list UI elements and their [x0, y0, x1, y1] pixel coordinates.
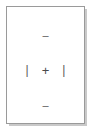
control-row-middle: | + | — [7, 62, 84, 78]
minus-icon-top[interactable]: – — [7, 30, 84, 41]
plus-icon-center[interactable]: + — [42, 64, 50, 77]
panel-root: – | + | – — [0, 0, 93, 132]
nudge-control-panel: – | + | – — [6, 6, 85, 124]
vertical-bar-icon-right[interactable]: | — [62, 64, 65, 76]
vertical-bar-icon-left[interactable]: | — [26, 64, 29, 76]
panel-shadow-right — [85, 9, 87, 125]
panel-shadow-bottom — [9, 124, 87, 126]
minus-icon-bottom[interactable]: – — [7, 100, 84, 111]
